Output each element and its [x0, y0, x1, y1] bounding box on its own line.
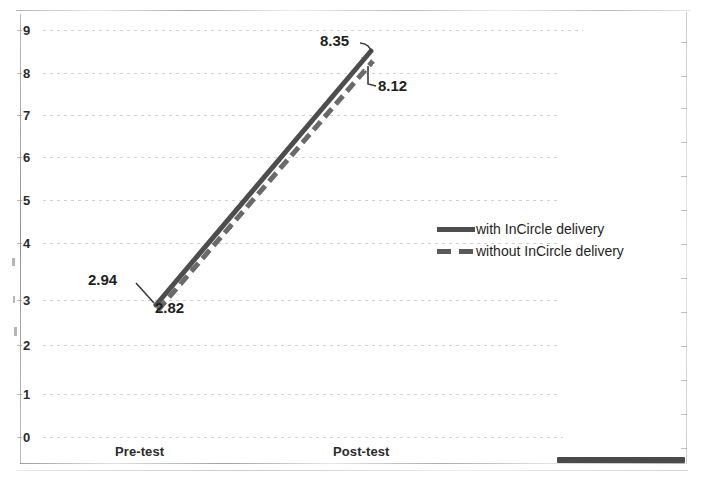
legend-item-without-incircle: without InCircle delivery: [437, 240, 624, 262]
legend-item-with-incircle: with InCircle delivery: [437, 218, 624, 240]
data-label-post-without-incircle: 8.12: [378, 78, 407, 93]
series-line-without-incircle: [158, 61, 373, 310]
series-line-with-incircle: [156, 51, 371, 305]
data-label-pre-without-incircle: 2.82: [155, 300, 184, 315]
leader-line-post-without: [368, 66, 376, 86]
data-label-pre-with-incircle: 2.94: [88, 272, 117, 287]
solid-line-swatch-icon: [437, 220, 475, 238]
dashed-line-swatch-icon: [437, 242, 475, 260]
legend-label-with-incircle: with InCircle delivery: [476, 222, 604, 236]
legend-label-without-incircle: without InCircle delivery: [476, 244, 624, 258]
leader-line-pre-with: [136, 283, 154, 303]
chart-legend: with InCircle delivery without InCircle …: [437, 218, 624, 262]
line-chart: 9 8 7 6 5 4 3 2 1 0 Pre-test Post-test 2…: [0, 0, 704, 488]
data-label-post-with-incircle: 8.35: [320, 33, 349, 48]
